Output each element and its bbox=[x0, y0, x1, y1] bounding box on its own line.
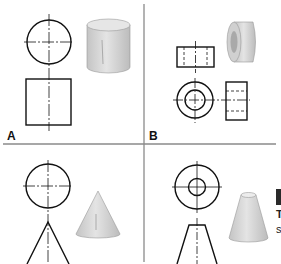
orthographic-projection-diagram bbox=[0, 0, 281, 264]
panel-c-cone bbox=[23, 160, 73, 264]
panel-label-a: A bbox=[7, 130, 16, 142]
frustum-3d-icon bbox=[229, 193, 268, 243]
ring-3d-icon bbox=[227, 22, 256, 62]
side-text-line-1: T bbox=[276, 209, 281, 220]
panel-a-cylinder bbox=[24, 14, 74, 131]
side-heading-block bbox=[276, 189, 281, 205]
side-text-line-2: s bbox=[276, 224, 281, 235]
cone-3d-icon bbox=[76, 191, 120, 238]
panel-d-frustum bbox=[172, 161, 222, 264]
panel-label-b: B bbox=[149, 130, 158, 142]
side-view-rect bbox=[226, 82, 247, 120]
front-view-rect bbox=[26, 79, 71, 125]
cylinder-3d-icon bbox=[87, 19, 130, 73]
front-view-trapezoid bbox=[177, 225, 217, 264]
